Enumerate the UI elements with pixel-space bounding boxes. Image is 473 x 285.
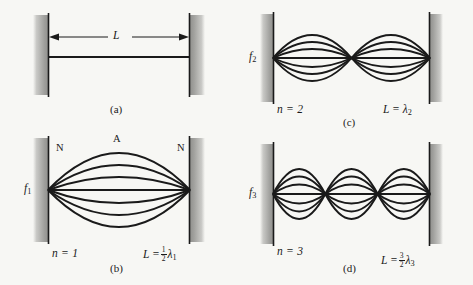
mode-label-c: n = 2 bbox=[277, 104, 303, 116]
panel-b: N A N f1 n = 1 L =12λ1 (b) bbox=[0, 130, 240, 285]
panel-a: L (a) bbox=[0, 0, 240, 130]
panel-a-caption: (a) bbox=[110, 104, 122, 115]
left-wall-d bbox=[260, 142, 274, 246]
wavelength-label-c: L = λ2 bbox=[383, 104, 412, 117]
standing-waves-figure: L (a) N A bbox=[0, 0, 473, 285]
mode-label-d: n = 3 bbox=[277, 246, 303, 258]
right-wall-c bbox=[429, 12, 443, 104]
wavelength-label-d: L =32λ3 bbox=[381, 252, 415, 268]
length-label-a: L bbox=[113, 30, 119, 42]
frequency-label-c: f2 bbox=[249, 51, 256, 64]
panel-c-caption: (c) bbox=[343, 117, 355, 128]
panel-d: f3 n = 3 L =32λ3 (d) bbox=[235, 130, 473, 285]
left-wall-c bbox=[260, 12, 274, 104]
left-wall-a bbox=[33, 13, 49, 97]
mode-label-b: n = 1 bbox=[52, 248, 78, 260]
left-wall-b bbox=[33, 136, 49, 244]
right-wall-b bbox=[189, 136, 205, 244]
frequency-label-d: f3 bbox=[249, 187, 256, 200]
node-label-right-b: N bbox=[177, 143, 185, 154]
panel-b-caption: (b) bbox=[110, 263, 123, 274]
right-wall-a bbox=[189, 13, 205, 97]
right-wall-d bbox=[429, 142, 443, 246]
frequency-label-b: f1 bbox=[24, 183, 31, 196]
panel-d-caption: (d) bbox=[343, 263, 356, 274]
antinode-label-b: A bbox=[113, 134, 121, 145]
panel-c-graphic bbox=[235, 0, 473, 130]
wavelength-label-b: L =12λ1 bbox=[143, 246, 177, 262]
node-label-left-b: N bbox=[56, 143, 64, 154]
panel-c: f2 n = 2 L = λ2 (c) bbox=[235, 0, 473, 130]
